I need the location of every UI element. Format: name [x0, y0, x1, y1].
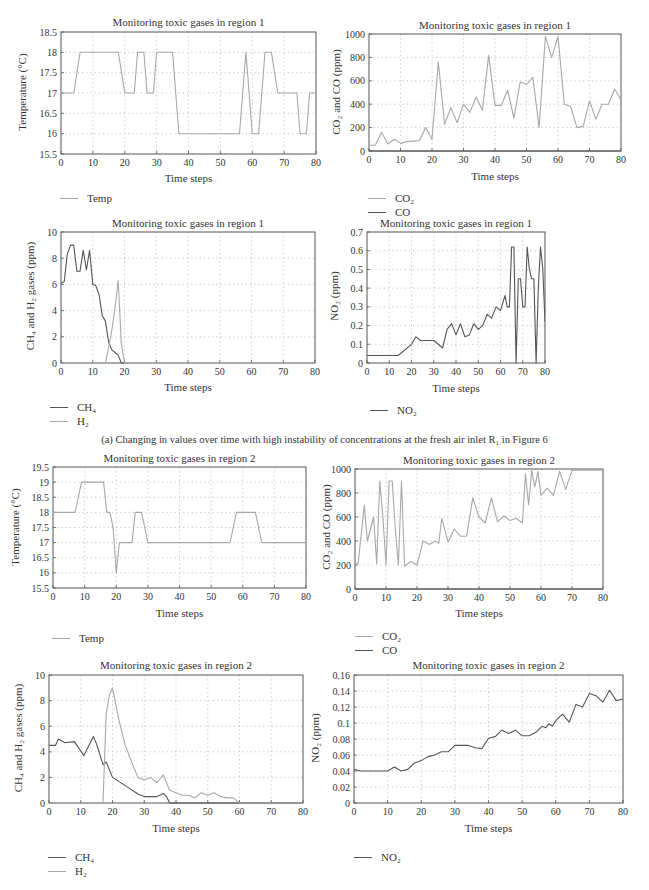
y-axis-label: NO₂ (ppm) — [309, 698, 321, 778]
legend-label: NO₂ — [381, 851, 401, 863]
chart-r2-no2: Monitoring toxic gases in region 2 NO₂ (… — [0, 0, 649, 890]
chart-legend: NO₂ — [354, 850, 401, 864]
x-axis-label: Time steps — [354, 822, 623, 834]
chart-title: Monitoring toxic gases in region 2 — [354, 659, 623, 671]
legend-item-no2: NO₂ — [354, 850, 401, 864]
legend-line-dark — [354, 857, 372, 858]
